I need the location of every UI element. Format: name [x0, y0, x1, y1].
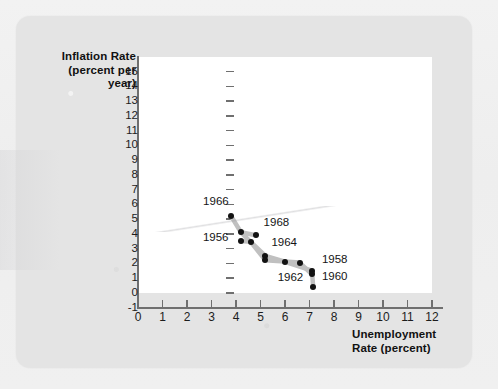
series-connector-lines — [0, 0, 498, 389]
